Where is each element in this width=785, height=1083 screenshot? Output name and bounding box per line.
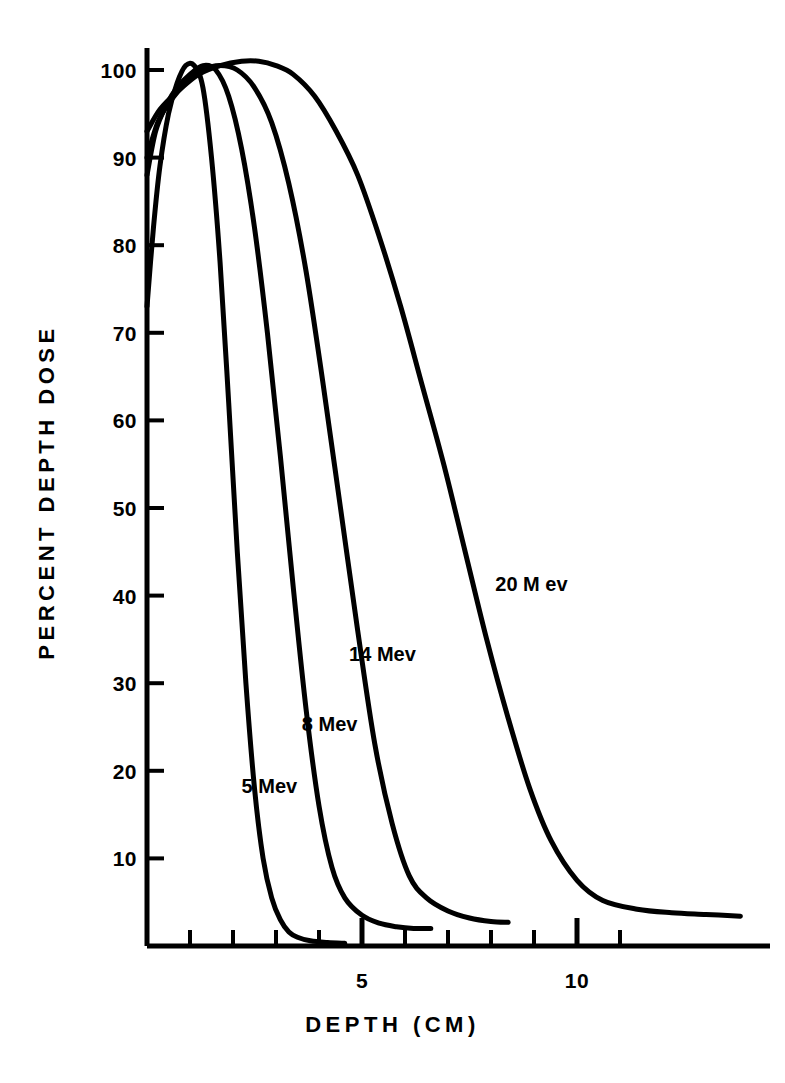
axes — [147, 48, 770, 946]
y-tick-label: 90 — [113, 147, 137, 170]
dose-curve — [147, 63, 345, 943]
chart-canvas: 102030405060708090100 510 5 Mev8 Mev14 M… — [0, 0, 785, 1083]
y-axis-title: PERCENT DEPTH DOSE — [34, 232, 74, 752]
x-axis-ticks — [190, 918, 620, 946]
y-tick-label: 100 — [100, 59, 137, 82]
y-tick-label: 10 — [113, 847, 137, 870]
x-axis-title-text: DEPTH (CM) — [305, 1012, 480, 1037]
curve-label: 5 Mev — [242, 775, 298, 797]
y-tick-label: 80 — [113, 234, 137, 257]
dose-curve — [147, 66, 508, 923]
x-tick-label: 5 — [356, 969, 368, 992]
x-tick-label: 10 — [565, 969, 589, 992]
y-tick-label: 20 — [113, 760, 137, 783]
x-axis-tick-labels: 510 — [356, 969, 589, 992]
dose-curves — [147, 61, 740, 944]
y-tick-label: 40 — [113, 585, 137, 608]
x-axis-title: DEPTH (CM) — [0, 1012, 785, 1038]
curve-label: 20 M ev — [495, 573, 568, 595]
y-tick-label: 50 — [113, 497, 137, 520]
curve-label: 8 Mev — [302, 713, 358, 735]
y-axis-tick-labels: 102030405060708090100 — [100, 59, 137, 870]
y-tick-label: 60 — [113, 409, 137, 432]
y-axis-title-text: PERCENT DEPTH DOSE — [34, 324, 59, 659]
y-tick-label: 70 — [113, 322, 137, 345]
depth-dose-chart: 102030405060708090100 510 5 Mev8 Mev14 M… — [0, 0, 785, 1083]
curve-label: 14 Mev — [349, 643, 417, 665]
y-tick-label: 30 — [113, 672, 137, 695]
